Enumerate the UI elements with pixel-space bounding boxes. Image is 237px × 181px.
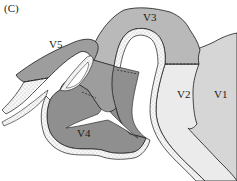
label-v3: V3 bbox=[143, 12, 156, 23]
label-v5: V5 bbox=[49, 39, 62, 50]
cortex-illustration bbox=[0, 0, 237, 181]
label-v2: V2 bbox=[177, 89, 190, 100]
panel-label: (C) bbox=[4, 2, 19, 14]
label-v1: V1 bbox=[214, 89, 227, 100]
visual-cortex-diagram: (C) V5 V3 V4 V2 V1 bbox=[0, 0, 237, 181]
label-v4: V4 bbox=[77, 128, 90, 139]
